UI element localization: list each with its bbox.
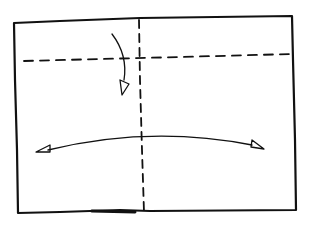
folding-diagram xyxy=(0,0,309,236)
fold-down-arrowhead-icon xyxy=(120,80,129,95)
vertical-crease-line xyxy=(139,20,144,212)
fold-down-arrow xyxy=(112,34,125,80)
fold-sideways-arrow xyxy=(48,136,252,150)
left-arrowhead-icon xyxy=(36,145,50,152)
right-arrowhead-icon xyxy=(251,140,264,149)
horizontal-crease-line xyxy=(24,54,292,61)
bottom-edge-thick xyxy=(92,211,135,212)
paper-outline xyxy=(14,16,296,213)
